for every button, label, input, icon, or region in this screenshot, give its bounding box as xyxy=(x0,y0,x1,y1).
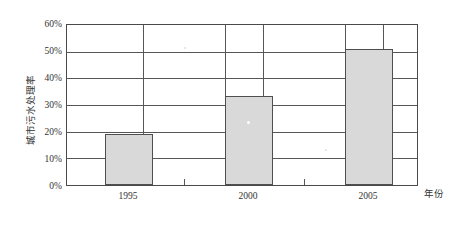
y-tick-label: 30% xyxy=(28,100,62,110)
y-tick-label: 50% xyxy=(28,46,62,56)
scan-speckle xyxy=(184,47,186,49)
y-tick-label: 60% xyxy=(28,19,62,29)
y-axis-ticks: 60% 50% 40% 30% 20% 10% 0% xyxy=(12,0,62,226)
y-tick-label: 20% xyxy=(28,127,62,137)
x-tick-label: 2005 xyxy=(328,190,408,202)
bar-2005 xyxy=(345,49,393,185)
bar-chart: 城市污水处理率 60% 50% 40% 30% 20% 10% 0% xyxy=(0,0,467,226)
x-axis-ticks: 1995 2000 2005 xyxy=(66,190,418,208)
scan-speckle xyxy=(325,149,327,151)
bar-1995 xyxy=(105,134,153,185)
x-axis-title: 年份 xyxy=(424,188,444,200)
x-axis-tickmark xyxy=(304,179,305,185)
y-tick-label: 0% xyxy=(28,181,62,191)
bar-2000 xyxy=(225,96,273,185)
x-axis-tickmark xyxy=(184,179,185,185)
plot-area xyxy=(66,24,418,186)
scan-speckle xyxy=(247,121,250,124)
x-tick-label: 2000 xyxy=(208,190,288,202)
y-tick-label: 40% xyxy=(28,73,62,83)
x-tick-label: 1995 xyxy=(88,190,168,202)
y-tick-label: 10% xyxy=(28,154,62,164)
